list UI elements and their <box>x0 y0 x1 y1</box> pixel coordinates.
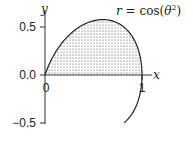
x-tick-label-0: 0 <box>43 81 50 95</box>
y-tick-label-0.0: 0.0 <box>19 68 36 82</box>
eq-close: ) <box>177 4 182 18</box>
y-axis-label: y <box>40 2 48 16</box>
shaded-region <box>45 20 142 75</box>
y-tick-label-neg0.5: −0.5 <box>12 116 36 130</box>
x-tick-label-1: 1 <box>139 81 146 95</box>
y-tick-label-0.5: 0.5 <box>19 20 36 34</box>
polar-curve-chart: y x 0.5 0.0 −0.5 0 1 r = cos(θ2) <box>0 0 193 141</box>
equation-annotation: r = cos(θ2) <box>116 3 181 18</box>
eq-func: = cos( <box>122 4 164 18</box>
x-axis-label: x <box>153 68 160 82</box>
